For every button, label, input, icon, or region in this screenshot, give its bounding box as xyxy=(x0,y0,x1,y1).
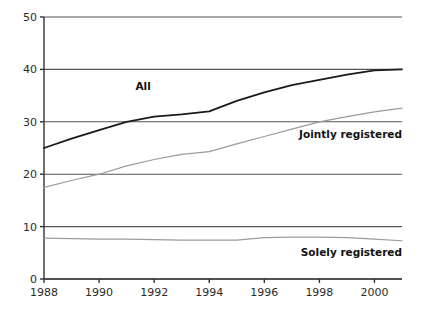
y-tick-label-0: 0 xyxy=(30,273,37,286)
y-tick-label-40: 40 xyxy=(23,63,37,76)
x-tick-label-2000: 2000 xyxy=(360,286,388,299)
x-tick-label-1998: 1998 xyxy=(305,286,333,299)
series-annotation-all: All xyxy=(135,80,150,92)
y-tick-label-30: 30 xyxy=(23,116,37,129)
chart-background xyxy=(0,0,421,318)
x-tick-label-1992: 1992 xyxy=(140,286,168,299)
y-tick-label-10: 10 xyxy=(23,221,37,234)
y-tick-label-50: 50 xyxy=(23,11,37,24)
chart-canvas: 01020304050 1988199019921994199619982000… xyxy=(0,0,421,318)
x-tick-label-1994: 1994 xyxy=(195,286,223,299)
x-tick-label-1990: 1990 xyxy=(85,286,113,299)
x-tick-label-1996: 1996 xyxy=(250,286,278,299)
line-chart: 01020304050 1988199019921994199619982000… xyxy=(0,0,421,318)
series-annotation-solely-registered: Solely registered xyxy=(301,246,402,258)
series-annotation-jointly-registered: Jointly registered xyxy=(298,128,402,140)
x-tick-label-1988: 1988 xyxy=(30,286,58,299)
y-tick-label-20: 20 xyxy=(23,168,37,181)
